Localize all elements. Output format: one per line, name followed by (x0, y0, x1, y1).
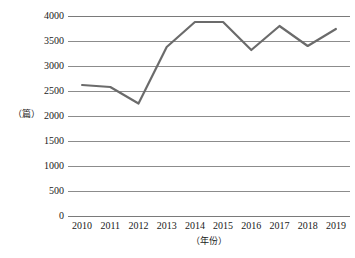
y-tick-label-4000: 4000 (22, 11, 64, 21)
series-line-publications (68, 16, 350, 216)
y-tick-label-1500: 1500 (22, 136, 64, 146)
y-tick-label-1000: 1000 (22, 161, 64, 171)
y-tick-label-0: 0 (22, 211, 64, 221)
y-axis-tick-labels: 40003500300025002000150010005000 (22, 0, 64, 258)
plot-area (68, 16, 350, 216)
series-polyline (82, 22, 336, 104)
y-tick-label-3500: 3500 (22, 36, 64, 46)
line-chart: （篇） 40003500300025002000150010005000 201… (0, 0, 355, 258)
x-axis-tick-labels: 2010201120122013201420152016201720182019 (68, 220, 350, 234)
x-tick-label-2019: 2019 (316, 220, 355, 232)
x-axis-title: （年份） (68, 236, 350, 247)
y-tick-label-2000: 2000 (22, 111, 64, 121)
y-tick-label-2500: 2500 (22, 86, 64, 96)
y-tick-label-3000: 3000 (22, 61, 64, 71)
y-tick-label-500: 500 (22, 186, 64, 196)
gridline-0 (68, 216, 350, 217)
